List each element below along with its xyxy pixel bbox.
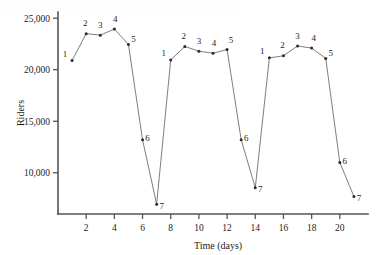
- x-tick-label-18: 18: [307, 223, 317, 233]
- riders-line-chart: 10,00015,00020,00025,000 246810121416182…: [0, 0, 378, 255]
- data-point-day-8: [169, 58, 172, 61]
- x-tick-label-12: 12: [222, 223, 232, 233]
- data-point-day-13: [240, 138, 243, 141]
- data-point-label-day-19: 5: [328, 48, 333, 58]
- data-point-label-day-10: 3: [197, 36, 202, 46]
- x-axis-title: Time (days): [194, 240, 242, 252]
- data-point-label-day-7: 7: [159, 201, 164, 211]
- data-point-label-day-18: 4: [311, 33, 316, 43]
- data-point-day-21: [352, 195, 355, 198]
- x-tick-label-4: 4: [112, 223, 117, 233]
- x-tick-label-8: 8: [168, 223, 173, 233]
- data-point-label-day-6: 6: [145, 133, 150, 143]
- data-point-label-group: 123456712345671234567: [63, 14, 362, 211]
- data-point-day-12: [226, 48, 229, 51]
- y-tick-label-20000: 20,000: [24, 65, 50, 75]
- x-tick-label-20: 20: [335, 223, 345, 233]
- x-axis-tick-label-group: 2468101214161820: [84, 223, 345, 233]
- data-point-day-7: [155, 203, 158, 206]
- data-point-label-day-9: 2: [182, 31, 187, 41]
- data-point-day-11: [212, 52, 215, 55]
- data-point-label-day-2: 2: [83, 18, 88, 28]
- data-series-line: [72, 29, 354, 204]
- data-point-day-19: [324, 57, 327, 60]
- x-tick-label-6: 6: [140, 223, 145, 233]
- x-tick-label-16: 16: [279, 223, 289, 233]
- y-tick-label-10000: 10,000: [24, 168, 50, 178]
- data-point-label-day-1: 1: [63, 49, 68, 59]
- y-tick-label-15000: 15,000: [24, 117, 50, 127]
- data-point-label-day-15: 1: [260, 46, 265, 56]
- data-point-day-6: [141, 138, 144, 141]
- x-tick-label-2: 2: [84, 223, 89, 233]
- data-point-day-3: [99, 34, 102, 37]
- data-point-day-20: [338, 161, 341, 164]
- data-point-day-14: [254, 186, 257, 189]
- data-point-day-18: [310, 47, 313, 50]
- data-point-label-day-13: 6: [244, 133, 249, 143]
- y-axis-tick-label-group: 10,00015,00020,00025,000: [24, 14, 50, 179]
- data-point-label-day-12: 5: [229, 35, 234, 45]
- data-point-label-day-5: 5: [131, 34, 136, 44]
- data-point-label-day-14: 7: [258, 184, 263, 194]
- data-point-label-day-8: 1: [161, 48, 166, 58]
- data-point-day-9: [183, 45, 186, 48]
- data-point-day-17: [296, 45, 299, 48]
- data-point-day-1: [71, 59, 74, 62]
- chart-figure: 10,00015,00020,00025,000 246810121416182…: [0, 0, 378, 255]
- data-point-label-day-21: 7: [357, 193, 362, 203]
- y-axis-title: Riders: [15, 100, 26, 126]
- data-point-day-15: [268, 56, 271, 59]
- data-point-day-10: [197, 50, 200, 53]
- x-tick-label-10: 10: [194, 223, 204, 233]
- data-point-day-16: [282, 54, 285, 57]
- data-point-label-day-3: 3: [98, 20, 103, 30]
- data-point-day-4: [113, 28, 116, 31]
- y-tick-label-25000: 25,000: [24, 14, 50, 24]
- data-point-label-day-4: 4: [113, 14, 118, 24]
- data-point-label-day-20: 6: [343, 156, 348, 166]
- data-point-day-2: [85, 32, 88, 35]
- data-point-marker-group: [71, 28, 356, 206]
- x-tick-label-14: 14: [251, 223, 261, 233]
- data-point-day-5: [127, 43, 130, 46]
- data-point-label-day-17: 3: [295, 31, 300, 41]
- data-point-label-day-11: 4: [212, 38, 217, 48]
- data-point-label-day-16: 2: [280, 40, 285, 50]
